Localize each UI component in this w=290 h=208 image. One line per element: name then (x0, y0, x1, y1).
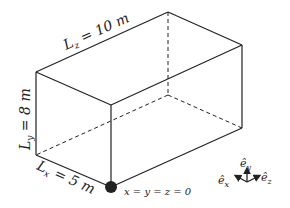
box-diagram: Lz = 10 m Ly = 8 m Lx = 5 m x = y = z = … (0, 0, 290, 208)
origin-label: x = y = z = 0 (124, 186, 192, 197)
diagram-canvas: Lz = 10 m Ly = 8 m Lx = 5 m x = y = z = … (0, 0, 290, 208)
ex-arrow (236, 176, 247, 182)
lz-label: Lz = 10 m (60, 10, 132, 55)
ly-label: Ly = 8 m (17, 88, 35, 151)
box-hidden-edges (36, 12, 242, 155)
ey-label: êy (240, 157, 252, 172)
ez-arrow (247, 176, 259, 182)
ez-label: êz (261, 171, 273, 186)
ex-label: êx (218, 174, 230, 189)
origin-point (105, 181, 117, 193)
lx-label: Lx = 5 m (33, 157, 98, 199)
